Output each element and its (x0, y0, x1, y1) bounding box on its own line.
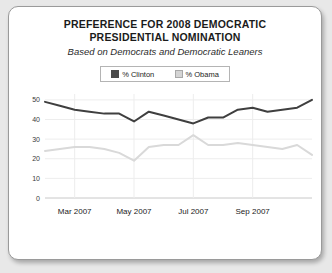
obama-swatch-icon (175, 70, 183, 78)
y-axis-labels: 01020304050 (32, 96, 40, 201)
y-axis-tick-label: 0 (36, 195, 40, 202)
chart-card: PREFERENCE FOR 2008 DEMOCRATIC PRESIDENT… (8, 6, 322, 260)
y-axis-tick-label: 40 (32, 116, 40, 123)
x-axis-tick-label: Jul 2007 (178, 207, 209, 216)
x-axis-tick-label: Sep 2007 (236, 207, 271, 216)
chart-title-block: PREFERENCE FOR 2008 DEMOCRATIC PRESIDENT… (9, 7, 321, 59)
legend-label-clinton: % Clinton (122, 70, 154, 79)
chart-title-line-1: PREFERENCE FOR 2008 DEMOCRATIC (9, 18, 321, 31)
legend-entry-obama: % Obama (175, 70, 219, 79)
legend-label-obama: % Obama (186, 70, 219, 79)
chart-subtitle: Based on Democrats and Democratic Leaner… (9, 45, 321, 59)
chart-title-line-2: PRESIDENTIAL NOMINATION (9, 31, 321, 44)
x-axis-labels: Mar 2007May 2007Jul 2007Sep 2007 (58, 207, 271, 216)
y-axis-tick-label: 30 (32, 136, 40, 143)
chart-legend: % Clinton % Obama (100, 66, 230, 82)
y-axis-tick-label: 10 (32, 175, 40, 182)
series-lines (45, 100, 312, 161)
line-chart-svg: 01020304050 Mar 2007May 2007Jul 2007Sep … (15, 88, 315, 228)
y-axis-tick-label: 20 (32, 155, 40, 162)
clinton-swatch-icon (111, 70, 119, 78)
chart-plot-area: 01020304050 Mar 2007May 2007Jul 2007Sep … (15, 88, 315, 228)
y-axis-tick-label: 50 (32, 96, 40, 103)
x-axis-tick-label: May 2007 (116, 207, 152, 216)
y-gridlines (45, 100, 312, 198)
x-axis-tick-label: Mar 2007 (58, 207, 92, 216)
legend-entry-clinton: % Clinton (111, 70, 154, 79)
